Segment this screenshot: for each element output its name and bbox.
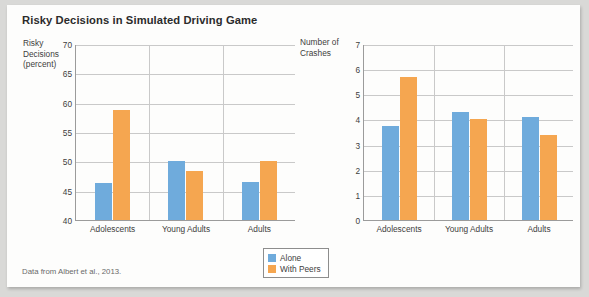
bar-alone: [522, 117, 539, 220]
x-axis-tick-label: Adolescents: [90, 224, 135, 234]
plot-area-left: 70656055504540AdolescentsYoung AdultsAdu…: [75, 45, 295, 221]
chart-panel-risky-decisions: Risky Decisions (percent) 70656055504540…: [7, 5, 307, 287]
y-axis-tick-label: 55: [63, 128, 72, 138]
y-axis-tick-label: 4: [355, 115, 360, 125]
bar-with-peers: [186, 171, 203, 220]
chart-panel-number-of-crashes: Number of Crashes 76543210AdolescentsYou…: [297, 5, 580, 287]
x-axis-tick-label: Adults: [527, 224, 550, 234]
bar-with-peers: [260, 161, 277, 220]
plot-area-right: 76543210AdolescentsYoung AdultsAdults: [363, 45, 573, 221]
y-axis-tick-label: 45: [63, 187, 72, 197]
source-note: Data from Albert et al., 2013.: [22, 267, 121, 276]
legend-item-with-peers: With Peers: [268, 263, 321, 274]
y-axis-tick-label: 40: [63, 216, 72, 226]
figure-card: Risky Decisions in Simulated Driving Gam…: [7, 5, 580, 287]
y-axis-tick-label: 5: [355, 90, 360, 100]
legend-item-alone: Alone: [268, 252, 321, 263]
gridline: [76, 221, 295, 222]
bar-with-peers: [400, 77, 417, 220]
bar-alone: [242, 182, 259, 220]
legend-label-alone: Alone: [280, 253, 301, 263]
gridline: [364, 221, 573, 222]
bar-with-peers: [540, 135, 557, 220]
legend-label-with-peers: With Peers: [280, 264, 321, 274]
y-axis-tick-label: 70: [63, 40, 72, 50]
x-axis-tick-label: Adults: [248, 224, 271, 234]
bar-group: Adolescents: [76, 45, 149, 220]
bar-group: Young Adults: [149, 45, 222, 220]
y-axis-tick-label: 0: [355, 216, 360, 226]
bar-with-peers: [113, 110, 130, 220]
y-axis-title-left: Risky Decisions (percent): [23, 38, 83, 70]
legend: Alone With Peers: [263, 248, 329, 278]
y-axis-tick-label: 60: [63, 99, 72, 109]
y-axis-tick-label: 6: [355, 65, 360, 75]
y-axis-tick-label: 65: [63, 69, 72, 79]
legend-swatch-alone: [268, 254, 276, 262]
bar-group: Young Adults: [434, 45, 504, 220]
bar-alone: [452, 112, 469, 220]
bar-group: Adults: [504, 45, 574, 220]
bar-alone: [168, 161, 185, 220]
y-axis-tick-label: 3: [355, 141, 360, 151]
legend-swatch-with-peers: [268, 265, 276, 273]
y-axis-tick-label: 7: [355, 40, 360, 50]
bar-with-peers: [470, 119, 487, 220]
y-axis-tick-label: 50: [63, 157, 72, 167]
bar-alone: [382, 126, 399, 220]
bar-alone: [95, 183, 112, 220]
bar-group: Adolescents: [364, 45, 434, 220]
x-axis-tick-label: Young Adults: [445, 224, 493, 234]
x-axis-tick-label: Young Adults: [162, 224, 210, 234]
bar-group: Adults: [223, 45, 296, 220]
x-axis-tick-label: Adolescents: [376, 224, 421, 234]
y-axis-tick-label: 1: [355, 191, 360, 201]
y-axis-tick-label: 2: [355, 166, 360, 176]
